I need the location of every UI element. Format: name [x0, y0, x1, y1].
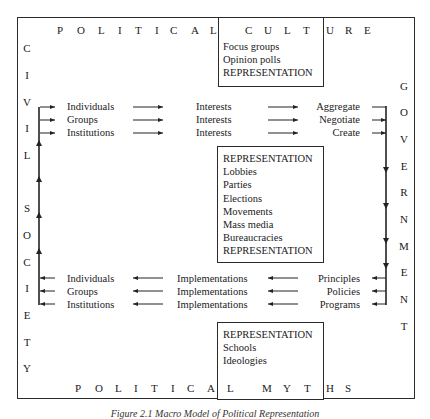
figure-caption: Figure 2.1 Macro Model of Political Repr… [0, 408, 430, 419]
